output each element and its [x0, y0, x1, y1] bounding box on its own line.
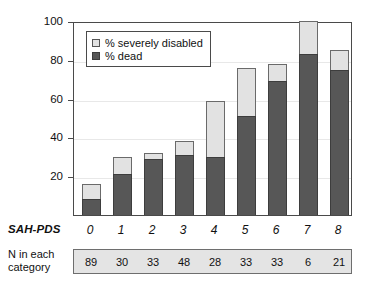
bar-group — [206, 101, 225, 215]
bar-segment-dead — [206, 157, 225, 215]
legend-swatch-icon — [92, 39, 100, 47]
y-tick-label: 100 — [0, 16, 63, 27]
n-row-box: 89303348283333621 — [73, 249, 352, 274]
bar-group — [330, 50, 349, 215]
x-tick-label: 1 — [112, 223, 131, 237]
x-tick-label: 6 — [267, 223, 286, 237]
n-value-cell: 6 — [299, 256, 318, 268]
x-tick-label: 3 — [174, 223, 193, 237]
x-tick-label: 8 — [329, 223, 348, 237]
legend-item-label: % dead — [105, 50, 142, 62]
x-tick-label: 2 — [143, 223, 162, 237]
bar-segment-dead — [268, 81, 287, 215]
n-value-cell: 33 — [144, 256, 163, 268]
n-value-cell: 89 — [82, 256, 101, 268]
x-tick-label: 0 — [81, 223, 100, 237]
bar-group — [144, 153, 163, 215]
bar-group — [175, 141, 194, 215]
bar-segment-severely-disabled — [175, 141, 194, 155]
bar-group — [237, 68, 256, 215]
legend-item: % severely disabled — [92, 36, 203, 49]
n-row-label-line2: category — [8, 261, 50, 273]
chart-figure: 20406080100 % severely disabled% dead SA… — [0, 0, 368, 291]
bar-group — [299, 21, 318, 215]
bar-segment-severely-disabled — [206, 101, 225, 157]
x-tick-label: 4 — [205, 223, 224, 237]
legend-item-label: % severely disabled — [105, 37, 203, 49]
legend-swatch-icon — [92, 52, 100, 60]
n-value-cell: 48 — [175, 256, 194, 268]
y-tick-label: 80 — [0, 55, 63, 66]
bar-group — [82, 184, 101, 215]
y-tick-label: 40 — [0, 132, 63, 143]
x-tick-label: 7 — [298, 223, 317, 237]
bar-segment-dead — [144, 159, 163, 215]
x-axis-title: SAH-PDS — [8, 223, 60, 235]
bar-segment-severely-disabled — [330, 50, 349, 69]
bar-segment-severely-disabled — [237, 68, 256, 117]
bar-group — [113, 157, 132, 215]
bar-segment-severely-disabled — [268, 64, 287, 81]
n-value-cell: 33 — [268, 256, 287, 268]
legend-item: % dead — [92, 49, 203, 62]
bar-segment-dead — [330, 70, 349, 216]
bar-segment-dead — [113, 174, 132, 215]
y-tick-label: 60 — [0, 94, 63, 105]
bar-segment-dead — [237, 116, 256, 215]
y-tick-label: 20 — [0, 171, 63, 182]
x-axis-row: SAH-PDS 012345678 — [0, 221, 368, 239]
bar-segment-dead — [299, 54, 318, 215]
bar-group — [268, 64, 287, 215]
n-value-cell: 33 — [237, 256, 256, 268]
n-value-cell: 21 — [330, 256, 349, 268]
n-row-label: N in each category — [8, 248, 54, 273]
bar-segment-dead — [82, 199, 101, 215]
bar-segment-severely-disabled — [82, 184, 101, 200]
bar-segment-severely-disabled — [113, 157, 132, 174]
n-value-cell: 28 — [206, 256, 225, 268]
x-tick-label: 5 — [236, 223, 255, 237]
bar-segment-dead — [175, 155, 194, 215]
n-row-label-line1: N in each — [8, 248, 54, 260]
bar-segment-severely-disabled — [299, 21, 318, 54]
chart-legend: % severely disabled% dead — [86, 31, 211, 67]
n-value-cell: 30 — [113, 256, 132, 268]
